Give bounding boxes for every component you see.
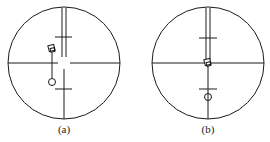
panel-a-label: (a) bbox=[58, 123, 71, 136]
target-ball bbox=[49, 79, 56, 86]
target-prism-icon bbox=[48, 44, 55, 52]
panel-a: (a) bbox=[8, 7, 120, 136]
reticle-diagram: (a) (b) bbox=[0, 0, 270, 142]
target-prism-icon bbox=[204, 58, 211, 66]
panel-b-label: (b) bbox=[202, 123, 215, 136]
panel-b: (b) bbox=[152, 7, 264, 136]
